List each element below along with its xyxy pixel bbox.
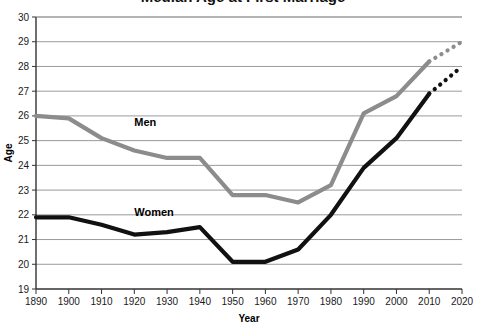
y-axis-tick-labels-group: 192021222324252627282930 [18,12,30,295]
y-tick-label: 29 [18,36,30,47]
y-tick-label: 20 [18,259,30,270]
x-tick-label: 1940 [189,296,212,307]
chart-title-clipped: Median Age at First Marriage [0,0,486,9]
x-tick-label: 1950 [221,296,244,307]
x-tick-label: 1970 [287,296,310,307]
chart-container: Median Age at First Marriage 19202122232… [0,0,486,326]
series-label-men: Men [134,116,156,128]
gridlines-group [36,17,462,264]
series-line-men [36,62,429,203]
x-tick-label: 1890 [25,296,48,307]
y-tick-label: 30 [18,12,30,23]
x-axis-title: Year [238,313,259,324]
chart-plot: 192021222324252627282930 189019001910192… [0,0,486,326]
x-tick-label: 1980 [320,296,343,307]
series-projection-women [429,66,462,93]
y-tick-label: 21 [18,234,30,245]
x-tick-label: 1920 [123,296,146,307]
x-tick-label: 1900 [58,296,81,307]
chart-title: Median Age at First Marriage [141,0,346,5]
y-tick-label: 19 [18,284,30,295]
series-labels-group: MenWomen [134,116,174,218]
x-axis-tick-labels-group: 1890190019101920193019401950196019701980… [25,296,474,307]
y-axis-title: Age [3,143,14,162]
x-tick-label: 1960 [254,296,277,307]
x-tick-label: 2020 [451,296,474,307]
axis-lines-group [36,17,462,289]
series-projection-men [429,42,462,62]
y-tick-label: 24 [18,160,30,171]
y-tick-label: 28 [18,61,30,72]
x-axis-ticks-group [36,289,462,294]
x-tick-label: 1990 [353,296,376,307]
y-tick-label: 23 [18,185,30,196]
y-tick-label: 25 [18,135,30,146]
series-label-women: Women [134,206,174,218]
x-tick-label: 1910 [90,296,113,307]
x-tick-label: 2000 [385,296,408,307]
series-line-women [36,94,429,262]
x-tick-label: 1930 [156,296,179,307]
y-tick-label: 26 [18,110,30,121]
x-tick-label: 2010 [418,296,441,307]
data-series-group [36,42,462,262]
y-tick-label: 27 [18,86,30,97]
y-tick-label: 22 [18,209,30,220]
